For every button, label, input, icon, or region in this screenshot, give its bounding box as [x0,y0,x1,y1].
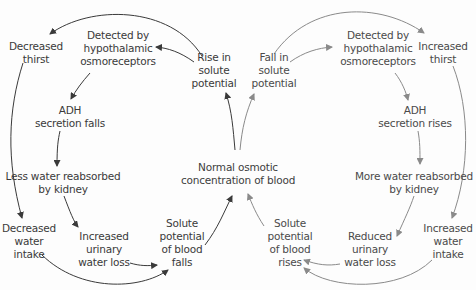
right-fall-in-solute-potential: Fall in solute potential [246,51,302,90]
left-detected-by-osmoreceptors: Detected by hypothalamic osmoreceptors [72,29,164,68]
right-increased-thirst: Increased thirst [410,40,476,66]
left-rise-in-solute-potential: Rise in solute potential [186,51,242,90]
left-increased-urinary-water-loss: Increased urinary water loss [72,230,136,269]
arrow-normal-to-fall [240,94,254,150]
left-less-water-reabsorbed: Less water reabsorbed by kidney [4,170,122,196]
arrow-detected-to-adh [395,73,408,100]
right-increased-water-intake: Increased water intake [420,222,476,261]
osmoregulation-diagram: Normal osmotic concentration of blood Ri… [0,0,476,290]
left-decreased-water-intake: Decreased water intake [0,222,58,261]
arrow-adh-to-kidney [57,131,60,166]
center-normal-concentration: Normal osmotic concentration of blood [176,161,300,187]
left-solute-potential-falls: Solute potential of blood falls [154,217,210,269]
arrow-normal-to-rise [226,93,235,150]
left-decreased-thirst: Decreased thirst [0,40,72,66]
arrow-kidney-to-urine [64,196,78,227]
right-solute-potential-rises: Solute potential of blood rises [262,217,318,269]
right-more-water-reabsorbed: More water reabsorbed by kidney [352,170,476,196]
arrow-detected-to-adh [71,73,90,99]
arrow-adh-to-kidney [418,131,420,164]
right-reduced-urinary-water-loss: Reduced urinary water loss [338,230,402,269]
left-adh-secretion-falls: ADH secretion falls [30,104,110,130]
right-adh-secretion-rises: ADH secretion rises [372,104,458,130]
